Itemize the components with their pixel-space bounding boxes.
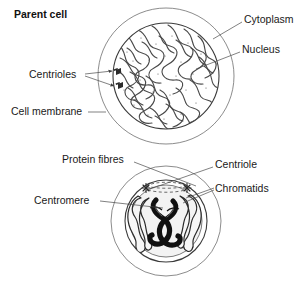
label-cell-membrane: Cell membrane: [11, 105, 82, 117]
label-protein-fibres: Protein fibres: [62, 153, 124, 165]
label-nucleus: Nucleus: [242, 43, 280, 55]
label-cytoplasm: Cytoplasm: [244, 13, 294, 25]
label-centriole: Centriole: [215, 158, 257, 170]
label-chromatids: Chromatids: [215, 182, 269, 194]
cell-division-diagram: Parent cell Cytoplasm Nucleus Centrioles…: [0, 0, 297, 283]
label-centrioles: Centrioles: [29, 68, 76, 80]
page-title: Parent cell: [14, 8, 67, 20]
diagram-canvas: Parent cell Cytoplasm Nucleus Centrioles…: [0, 0, 297, 283]
label-centromere: Centromere: [34, 194, 90, 206]
